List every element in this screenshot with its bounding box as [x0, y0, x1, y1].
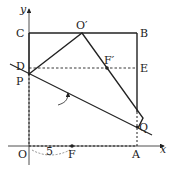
label-C: C	[16, 27, 24, 40]
label-P: P	[16, 75, 24, 88]
label-A: A	[131, 148, 141, 161]
label-Fprime: F′	[104, 54, 115, 67]
folded-flap	[29, 33, 143, 128]
point-P-dot	[28, 73, 30, 75]
label-B: B	[140, 27, 148, 40]
label-F: F	[68, 148, 76, 161]
point-Q-dot	[136, 126, 138, 128]
fold-line-PQ	[10, 64, 152, 135]
label-Oprime: O′	[76, 19, 88, 32]
diagram-canvas: y x C B O′ D E P F′ F A Q O 5	[0, 0, 172, 175]
label-E: E	[140, 62, 148, 75]
measure-label-5: 5	[46, 145, 53, 158]
label-Q: Q	[139, 121, 148, 134]
fold-arrow-icon	[58, 93, 68, 105]
label-O: O	[18, 148, 27, 161]
label-D: D	[16, 60, 25, 73]
folding-diagram: y x C B O′ D E P F′ F A Q O 5	[0, 0, 172, 175]
y-axis-label: y	[19, 3, 27, 16]
x-axis-label: x	[160, 143, 167, 156]
